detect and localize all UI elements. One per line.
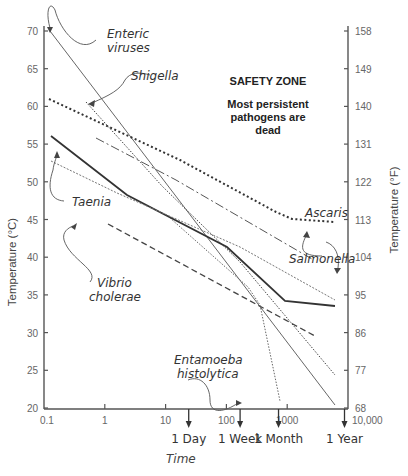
y-tick-label-left: 35 bbox=[27, 290, 39, 301]
label-enteric-viruses-1: Enteric bbox=[107, 27, 150, 41]
arrow-down-icon bbox=[237, 421, 243, 428]
label-entamoeba-2: histolytica bbox=[177, 367, 239, 381]
y-tick-label-left: 25 bbox=[27, 365, 39, 376]
y-axis-left-title: Temperature (°C) bbox=[6, 218, 18, 306]
series-vibrio-cholerae bbox=[108, 224, 315, 336]
safety-zone-annotation: SAFETY ZONE Most persistent pathogens ar… bbox=[227, 75, 309, 136]
label-enteric-viruses-2: viruses bbox=[107, 41, 150, 55]
time-marker-label: 1 Month bbox=[254, 432, 303, 446]
y-tick-label-right: 131 bbox=[355, 139, 372, 150]
arrow-down-icon bbox=[342, 421, 348, 428]
arrow-down-icon bbox=[186, 421, 192, 428]
y-tick-label-right: 68 bbox=[355, 403, 367, 414]
y-axis-right-title: Temperature (°F) bbox=[388, 166, 400, 253]
y-tick-label-right: 158 bbox=[355, 26, 372, 37]
y-tick-label-right: 77 bbox=[355, 365, 367, 376]
safety-zone-line-1: Most persistent bbox=[227, 98, 309, 110]
y-tick-label-left: 50 bbox=[27, 177, 39, 188]
y-axis-left-ticks: 2025303540455055606570 bbox=[27, 26, 48, 414]
y-tick-label-left: 20 bbox=[27, 403, 39, 414]
label-salmonella: Salmonella bbox=[289, 252, 355, 266]
y-tick-label-right: 86 bbox=[355, 328, 367, 339]
time-markers: 1 Day1 Week1 Month1 Year bbox=[171, 409, 363, 446]
y-tick-label-right: 113 bbox=[355, 215, 371, 226]
y-tick-label-left: 65 bbox=[27, 64, 39, 75]
time-marker-label: 1 Year bbox=[326, 432, 363, 446]
label-ascaris: Ascaris bbox=[304, 206, 348, 220]
label-vibrio-2: cholerae bbox=[89, 290, 141, 304]
label-entamoeba-1: Entamoeba bbox=[174, 353, 243, 367]
y-tick-label-left: 55 bbox=[27, 139, 39, 150]
series-taenia bbox=[51, 136, 335, 306]
label-taenia: Taenia bbox=[72, 195, 111, 209]
label-vibrio-1: Vibrio bbox=[97, 276, 132, 290]
x-tick-label: 100 bbox=[218, 415, 235, 426]
label-shigella: Shigella bbox=[131, 69, 179, 83]
y-tick-label-right: 122 bbox=[355, 177, 372, 188]
y-tick-label-right: 149 bbox=[355, 64, 372, 75]
time-marker-label: 1 Day bbox=[171, 432, 206, 446]
y-tick-label-right: 140 bbox=[355, 101, 372, 112]
y-tick-label-left: 40 bbox=[27, 252, 39, 263]
pathogen-temperature-time-chart: 2025303540455055606570 68778695104113122… bbox=[0, 0, 408, 476]
y-tick-label-left: 30 bbox=[27, 328, 39, 339]
safety-zone-line-3: dead bbox=[255, 124, 281, 136]
safety-zone-title: SAFETY ZONE bbox=[230, 75, 307, 87]
species-labels: Enteric viruses Shigella Ascaris Salmone… bbox=[72, 27, 355, 381]
y-tick-label-left: 70 bbox=[27, 26, 39, 37]
x-axis-title: Time bbox=[166, 452, 196, 466]
x-tick-label: 0.1 bbox=[40, 415, 54, 426]
x-tick-label: 1 bbox=[102, 415, 108, 426]
series-taenia-alt bbox=[51, 161, 335, 300]
safety-zone-line-2: pathogens are bbox=[230, 111, 305, 123]
series-lines bbox=[49, 31, 335, 405]
series-enteric-viruses bbox=[50, 31, 335, 405]
y-tick-label-left: 45 bbox=[27, 215, 39, 226]
y-tick-label-right: 95 bbox=[355, 290, 367, 301]
y-tick-label-left: 60 bbox=[27, 101, 39, 112]
x-tick-label: 10,000 bbox=[352, 415, 383, 426]
x-tick-label: 10 bbox=[160, 415, 172, 426]
y-tick-label-right: 104 bbox=[355, 252, 372, 263]
